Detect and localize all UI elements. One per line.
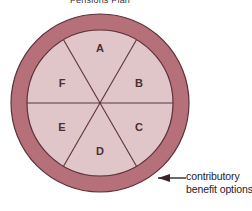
segment-label-c: C [135, 121, 143, 133]
callout-line-1: contributory [186, 170, 252, 183]
callout-annotation: contributory benefit options [186, 170, 252, 195]
arrowhead-icon [158, 174, 170, 182]
segment-label-d: D [96, 145, 104, 157]
segment-label-f: F [59, 77, 66, 89]
segment-label-b: B [135, 77, 143, 89]
segment-label-e: E [58, 121, 65, 133]
callout-line-2: benefit options [186, 183, 252, 196]
segment-label-a: A [96, 42, 104, 54]
figure-container: Pensions Plan A B C D E F contributory b… [0, 0, 252, 211]
leader-arrow [158, 174, 186, 182]
